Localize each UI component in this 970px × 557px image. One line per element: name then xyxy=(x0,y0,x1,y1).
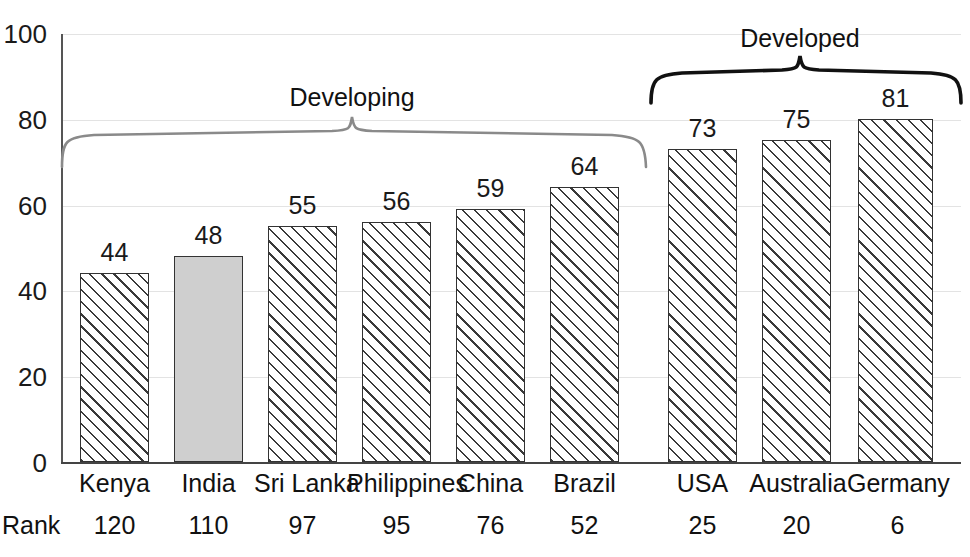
bar-value-philippines: 56 xyxy=(362,189,431,214)
bar-value-brazil: 64 xyxy=(550,154,619,179)
bar-value-sri-lanka: 55 xyxy=(268,193,337,218)
category-label-philippines: Philippines xyxy=(347,470,447,497)
category-label-china: China xyxy=(448,470,533,497)
bar-chart: 100 80 60 40 20 0 Developing Developed 4… xyxy=(0,0,970,557)
bar-china[interactable] xyxy=(456,209,525,462)
bar-value-germany: 81 xyxy=(858,86,933,111)
rank-value-kenya: 120 xyxy=(72,512,157,539)
category-label-india: India xyxy=(166,470,251,497)
bar-brazil[interactable] xyxy=(550,187,619,462)
rank-value-brazil: 52 xyxy=(542,512,627,539)
bar-value-kenya: 44 xyxy=(80,240,149,265)
bar-sri-lanka[interactable] xyxy=(268,226,337,462)
rank-row-title: Rank xyxy=(2,512,60,539)
rank-value-philippines: 95 xyxy=(354,512,439,539)
category-label-sri-lanka: Sri Lanka xyxy=(254,470,354,497)
category-label-australia: Australia xyxy=(748,470,848,497)
category-label-germany: Germany xyxy=(847,470,947,497)
rank-value-germany: 6 xyxy=(855,512,940,539)
bar-value-india: 48 xyxy=(174,223,243,248)
category-label-kenya: Kenya xyxy=(72,470,157,497)
bar-usa[interactable] xyxy=(668,149,737,462)
bar-value-china: 59 xyxy=(456,176,525,201)
bar-kenya[interactable] xyxy=(80,273,149,462)
bar-philippines[interactable] xyxy=(362,222,431,462)
rank-value-usa: 25 xyxy=(660,512,745,539)
category-label-brazil: Brazil xyxy=(542,470,627,497)
bar-value-australia: 75 xyxy=(762,107,831,132)
bar-india[interactable] xyxy=(174,256,243,462)
rank-value-australia: 20 xyxy=(754,512,839,539)
rank-value-sri-lanka: 97 xyxy=(260,512,345,539)
rank-value-india: 110 xyxy=(166,512,251,539)
bar-australia[interactable] xyxy=(762,140,831,462)
category-label-usa: USA xyxy=(660,470,745,497)
rank-value-china: 76 xyxy=(448,512,533,539)
bar-value-usa: 73 xyxy=(668,116,737,141)
bar-germany[interactable] xyxy=(858,119,933,462)
